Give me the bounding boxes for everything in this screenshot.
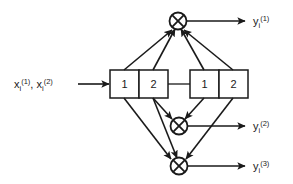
tap-right2-to-bottom: [186, 98, 233, 159]
tap-right1-to-top: [181, 29, 204, 70]
register-cell-left-1-label: 1: [121, 78, 127, 90]
figure-canvas: 1 2 1 2: [0, 0, 293, 184]
output-label-1-text: yi(1): [253, 14, 270, 30]
register-cell-left-2-label: 2: [150, 78, 156, 90]
modulo2-adder-bottom: [171, 158, 188, 175]
output-label-2-text: yi(2): [253, 119, 270, 135]
tap-right2-to-top: [184, 30, 233, 70]
output-label-3: yi(3): [253, 159, 270, 175]
shift-register-right: 1 2: [190, 70, 248, 98]
tap-left2-to-middle: [153, 98, 172, 119]
input-label-sup-2: (2): [44, 77, 54, 86]
tap-right1-to-middle: [185, 98, 204, 119]
output-label-3-text: yi(3): [253, 159, 270, 175]
tap-left2-to-top: [153, 29, 175, 70]
output-label-2-sup: (2): [260, 119, 270, 128]
output-label-1-sup: (1): [260, 14, 270, 23]
modulo2-adder-middle: [171, 118, 188, 135]
output-label-2: yi(2): [253, 119, 270, 135]
output-label-3-sup: (3): [260, 159, 270, 168]
tap-left1-to-top: [124, 30, 172, 70]
modulo2-adder-top: [170, 13, 187, 30]
shift-register-left: 1 2: [110, 70, 168, 98]
output-label-1: yi(1): [253, 14, 270, 30]
register-cell-right-1-label: 1: [201, 78, 207, 90]
input-label-text: xi(1), xi(2): [14, 77, 53, 93]
taps-to-top-adder: [124, 29, 233, 70]
register-cell-right-2-label: 2: [230, 78, 236, 90]
tap-left1-to-bottom: [124, 98, 171, 159]
input-label: xi(1), xi(2): [14, 77, 53, 93]
encoder-diagram: 1 2 1 2: [0, 0, 293, 184]
